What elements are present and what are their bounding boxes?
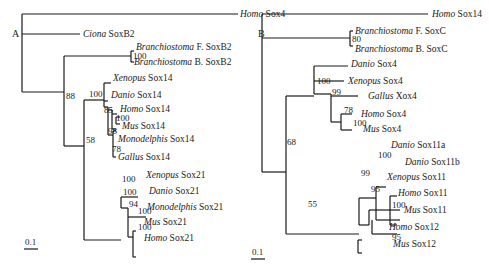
- taxon-genus: Danio: [110, 90, 135, 100]
- taxon-gene: Sox14: [455, 9, 482, 19]
- taxon-gene: Sox12: [412, 222, 439, 232]
- bootstrap-value: 58: [86, 135, 96, 145]
- bootstrap-value: 98: [108, 126, 118, 136]
- scale-bar-label: 0.1: [252, 247, 263, 257]
- taxon-label: Danio Sox11a: [390, 140, 446, 150]
- taxon-gene: Sox4: [379, 124, 401, 134]
- taxon-genus: Xenopus: [386, 172, 420, 182]
- taxon-label: Monodelphis Sox21: [146, 202, 224, 212]
- taxon-label: Monodelphis Sox14: [117, 134, 195, 144]
- bootstrap-value: 95: [371, 184, 381, 194]
- taxon-label: Branchiostoma F. SoxC: [355, 26, 446, 36]
- taxon-label: Homo Sox4: [360, 109, 406, 119]
- taxon-gene: SoxB2: [106, 29, 134, 39]
- taxon-genus: Branchiostoma: [355, 26, 413, 36]
- taxon-genus: Homo: [388, 222, 412, 232]
- taxon-label: Gallus Sox14: [118, 152, 170, 162]
- taxon-label: Gallus Xox4: [368, 91, 417, 101]
- taxon-gene: Sox14: [135, 90, 162, 100]
- bootstrap-value: 100: [378, 150, 392, 160]
- taxon-label: Branchiostoma B. SoxC: [355, 44, 448, 54]
- bootstrap-value: 85: [104, 105, 114, 115]
- taxon-gene: Sox21: [197, 202, 224, 212]
- bootstrap-value: 55: [308, 199, 318, 209]
- taxon-gene: B. SoxC: [413, 44, 448, 54]
- bootstrap-value: 88: [66, 91, 76, 101]
- taxon-genus: Homo: [143, 233, 167, 243]
- taxon-genus: Danio: [350, 59, 375, 69]
- taxon-genus: Xenopus: [112, 73, 146, 83]
- taxon-genus: Monodelphis: [117, 134, 168, 144]
- taxon-label: Xenopus Sox4: [347, 76, 403, 86]
- taxon-genus: Danio: [390, 140, 415, 150]
- bootstrap-value: 100: [138, 206, 152, 216]
- taxon-label: Homo Sox11: [397, 188, 448, 198]
- taxon-gene: Sox11: [420, 172, 447, 182]
- taxon-gene: Sox11: [420, 205, 447, 215]
- bootstrap-value: 100: [133, 51, 147, 61]
- bootstrap-value: 100: [353, 118, 367, 128]
- taxon-label: Homo Sox21: [143, 233, 194, 243]
- taxon-gene: Sox14: [143, 104, 170, 114]
- scale-bar-label: 0.1: [25, 237, 36, 247]
- taxon-gene: Sox21: [179, 170, 206, 180]
- taxon-gene: Sox14: [168, 134, 195, 144]
- taxon-label: Danio Sox4: [350, 59, 397, 69]
- taxon-gene: Sox14: [143, 152, 170, 162]
- taxon-genus: Monodelphis: [146, 202, 197, 212]
- bootstrap-value: 99: [332, 87, 342, 97]
- bootstrap-value: 100: [317, 76, 331, 86]
- taxon-label: Danio Sox21: [148, 186, 200, 196]
- taxon-gene: F. SoxB2: [194, 42, 232, 52]
- bootstrap-value: 68: [287, 137, 297, 147]
- taxon-label: Xenopus Sox14: [112, 73, 173, 83]
- taxon-label: Ciona SoxB2: [83, 29, 135, 39]
- taxon-label: Xenopus Sox21: [145, 170, 206, 180]
- bootstrap-value: 99: [361, 168, 371, 178]
- panel-label: A: [12, 28, 20, 39]
- taxon-label: Branchiostoma F. SoxB2: [136, 42, 232, 52]
- taxon-gene: Sox21: [167, 233, 194, 243]
- bootstrap-value: 78: [112, 144, 122, 154]
- taxon-genus: Ciona: [83, 29, 106, 39]
- bootstrap-value: 100: [392, 200, 406, 210]
- taxon-gene: B. SoxB2: [192, 57, 232, 67]
- bootstrap-value: 100: [89, 89, 103, 99]
- taxon-genus: Mus: [403, 205, 421, 215]
- taxon-gene: Sox14: [138, 121, 165, 131]
- panel-b: BHomo Sox14Branchiostoma F. SoxCBranchio…: [251, 9, 482, 259]
- taxon-label: Danio Sox14: [110, 90, 162, 100]
- taxon-gene: Sox14: [146, 73, 173, 83]
- taxon-genus: Homo: [431, 9, 455, 19]
- taxon-gene: Sox4: [375, 59, 397, 69]
- taxon-gene: Sox12: [409, 239, 436, 249]
- bootstrap-value: 100: [116, 113, 130, 123]
- taxon-genus: Gallus: [118, 152, 144, 162]
- taxon-label: Branchiostoma B. SoxB2: [134, 57, 232, 67]
- taxon-gene: Sox11b: [429, 157, 460, 167]
- taxon-genus: Homo: [239, 9, 263, 19]
- taxon-gene: F. SoxC: [413, 26, 446, 36]
- taxon-genus: Homo: [397, 188, 421, 198]
- taxon-gene: Sox21: [160, 217, 187, 227]
- phylogenetic-tree-figure: AHomo Sox4Ciona SoxB2Branchiostoma F. So…: [0, 0, 489, 274]
- bootstrap-value: 80: [352, 34, 362, 44]
- taxon-genus: Xenopus: [145, 170, 179, 180]
- taxon-label: Mus Sox11: [403, 205, 447, 215]
- taxon-label: Homo Sox12: [388, 222, 439, 232]
- taxon-label: Xenopus Sox11: [386, 172, 446, 182]
- taxon-label: Mus Sox4: [362, 124, 402, 134]
- taxon-gene: Sox4: [384, 109, 406, 119]
- taxon-genus: Danio: [404, 157, 429, 167]
- bootstrap-value: 100: [138, 222, 152, 232]
- taxon-gene: Sox4: [381, 76, 403, 86]
- bootstrap-value: 78: [344, 105, 354, 115]
- taxon-gene: Xox4: [393, 91, 417, 101]
- taxon-genus: Branchiostoma: [355, 44, 413, 54]
- bootstrap-value: 100: [122, 174, 136, 184]
- panel-a: AHomo Sox4Ciona SoxB2Branchiostoma F. So…: [12, 9, 285, 257]
- taxon-gene: Sox21: [173, 186, 200, 196]
- taxon-gene: Sox11: [421, 188, 448, 198]
- taxon-genus: Xenopus: [347, 76, 381, 86]
- taxon-genus: Danio: [148, 186, 173, 196]
